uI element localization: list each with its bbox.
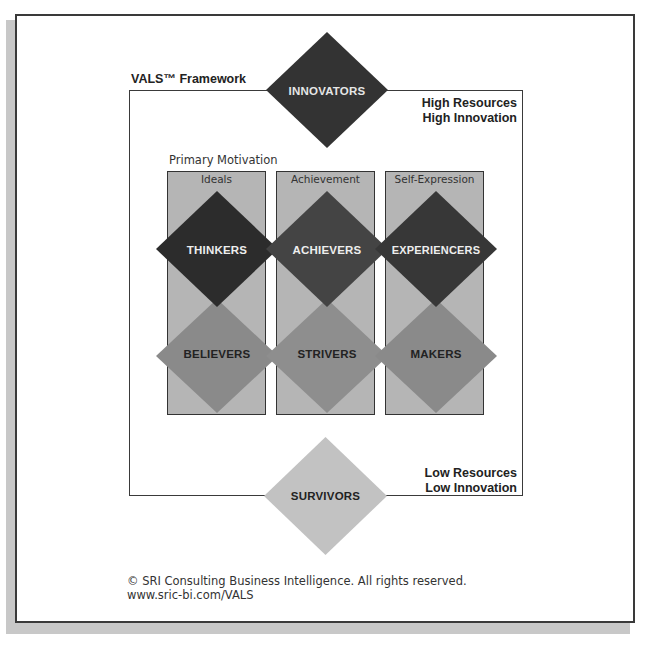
- diamond-believers: BELIEVERS: [156, 299, 278, 413]
- copyright-text: © SRI Consulting Business Intelligence. …: [127, 574, 467, 588]
- experiencers-label: EXPERIENCERS: [375, 244, 497, 256]
- low-resources-label: Low Resources Low Innovation: [405, 466, 517, 496]
- diamond-thinkers: THINKERS: [156, 191, 278, 307]
- high-resources-label: High Resources High Innovation: [405, 96, 517, 126]
- achievers-label: ACHIEVERS: [266, 244, 388, 256]
- column-label-self-expression: Self-Expression: [386, 173, 483, 185]
- diamond-achievers: ACHIEVERS: [266, 191, 388, 307]
- thinkers-label: THINKERS: [156, 244, 278, 256]
- low-innovation-text: Low Innovation: [405, 481, 517, 496]
- column-label-ideals: Ideals: [168, 173, 265, 185]
- footer-url: www.sric-bi.com/VALS: [127, 588, 467, 602]
- framework-title: VALS™ Framework: [131, 72, 246, 86]
- diamond-innovators: INNOVATORS: [266, 32, 388, 148]
- believers-label: BELIEVERS: [156, 348, 278, 360]
- low-resources-text: Low Resources: [405, 466, 517, 481]
- high-resources-text: High Resources: [405, 96, 517, 111]
- footer: © SRI Consulting Business Intelligence. …: [127, 574, 467, 602]
- strivers-label: STRIVERS: [266, 348, 388, 360]
- diamond-makers: MAKERS: [375, 299, 497, 413]
- primary-motivation-label: Primary Motivation: [169, 153, 278, 167]
- diamond-experiencers: EXPERIENCERS: [375, 191, 497, 307]
- diamond-strivers: STRIVERS: [266, 299, 388, 413]
- diamond-survivors: SURVIVORS: [264, 437, 387, 555]
- column-label-achievement: Achievement: [277, 173, 374, 185]
- survivors-label: SURVIVORS: [264, 490, 387, 502]
- high-innovation-text: High Innovation: [405, 111, 517, 126]
- innovators-label: INNOVATORS: [266, 85, 388, 97]
- makers-label: MAKERS: [375, 348, 497, 360]
